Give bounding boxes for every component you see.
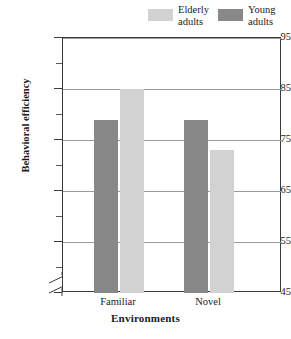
legend-swatch-elderly-icon — [148, 9, 173, 21]
y-axis-title: Behavioral efficiency — [20, 66, 31, 186]
bar-familiar-elderly — [120, 89, 144, 293]
legend-label-young-line2: adults — [248, 16, 276, 28]
bar-chart: Elderly adults Young adults Behavioral e… — [0, 0, 291, 339]
legend-label-young: Young adults — [248, 4, 276, 27]
x-tick-label-familiar: Familiar — [78, 296, 158, 307]
legend-item-young-adults: Young adults — [218, 4, 276, 27]
chart-legend: Elderly adults Young adults — [140, 4, 291, 34]
plot-area — [62, 37, 281, 292]
y-tick-major-85 — [54, 88, 62, 89]
legend-label-young-line1: Young — [248, 4, 276, 15]
y-tick-major-65 — [54, 190, 62, 191]
legend-swatch-young-icon — [218, 9, 243, 21]
y-tick-major-95 — [54, 37, 62, 38]
legend-label-elderly-line2: adults — [178, 16, 209, 28]
legend-label-elderly: Elderly adults — [178, 4, 209, 27]
gridline-85 — [63, 89, 282, 90]
legend-label-elderly-line1: Elderly — [178, 4, 209, 15]
gridline-95 — [63, 38, 282, 39]
legend-item-elderly-adults: Elderly adults — [148, 4, 209, 27]
x-axis-title: Environments — [0, 312, 291, 324]
bar-familiar-young — [94, 120, 118, 293]
y-tick-major-55 — [54, 241, 62, 242]
y-axis: Behavioral efficiency — [0, 0, 52, 339]
y-tick-major-75 — [54, 139, 62, 140]
x-tick-label-novel: Novel — [168, 296, 248, 307]
bar-novel-elderly — [210, 150, 234, 293]
bar-novel-young — [184, 120, 208, 293]
